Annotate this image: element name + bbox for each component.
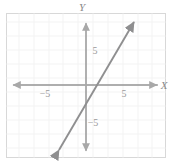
coordinate-plane-svg: Y X −5 5 5 −5 — [0, 0, 174, 164]
x-tick-label-pos5: 5 — [122, 88, 127, 99]
x-tick-label-neg5: −5 — [40, 88, 51, 99]
y-tick-label-neg5: −5 — [88, 117, 99, 128]
y-tick-label-pos5: 5 — [93, 45, 98, 56]
coordinate-plane-figure: Y X −5 5 5 −5 — [0, 0, 174, 164]
x-axis-label: X — [160, 79, 169, 91]
y-axis-label: Y — [79, 1, 87, 13]
